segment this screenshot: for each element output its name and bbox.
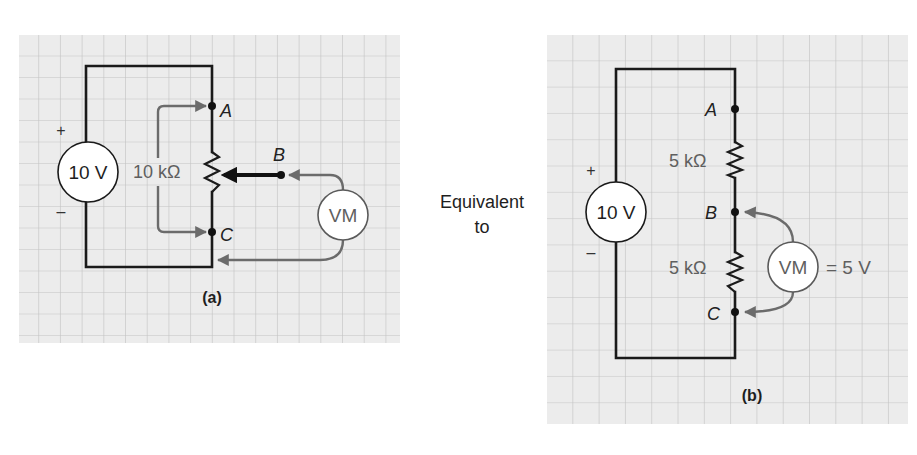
node-b-dot — [731, 208, 739, 216]
panel-a: A B C 10 kΩ 10 V + – VM (a) — [19, 35, 400, 343]
voltmeter-label: VM — [779, 257, 808, 278]
source-minus-sign: – — [587, 244, 596, 261]
node-b-dot — [277, 171, 285, 179]
voltage-source-label: 10 V — [68, 162, 107, 183]
to-text: to — [420, 215, 544, 240]
node-c-dot — [731, 308, 739, 316]
node-a-label: A — [219, 101, 232, 121]
potentiometer-value-label: 10 kΩ — [133, 162, 180, 182]
equivalent-to-label: Equivalent to — [420, 190, 544, 240]
node-a-label: A — [704, 100, 717, 120]
node-c-label: C — [707, 304, 721, 324]
voltmeter-label: VM — [329, 205, 358, 226]
node-b-label: B — [273, 145, 285, 165]
source-minus-sign: – — [57, 203, 66, 220]
node-c-label: C — [220, 225, 234, 245]
panel-b: A B C 5 kΩ 5 kΩ 10 V + – VM = 5 V (b) — [547, 35, 908, 424]
node-c-dot — [208, 228, 216, 236]
resistor-1-value-label: 5 kΩ — [669, 151, 706, 171]
source-plus-sign: + — [56, 122, 65, 139]
source-plus-sign: + — [586, 162, 595, 179]
voltage-source-label: 10 V — [596, 202, 635, 223]
equivalent-text: Equivalent — [420, 190, 544, 215]
node-a-dot — [731, 105, 739, 113]
voltmeter-reading: = 5 V — [826, 257, 871, 278]
resistor-2-value-label: 5 kΩ — [669, 258, 706, 278]
panel-a-caption: (a) — [202, 289, 222, 306]
panel-b-caption: (b) — [742, 387, 762, 404]
node-b-label: B — [705, 203, 717, 223]
node-a-dot — [208, 102, 216, 110]
